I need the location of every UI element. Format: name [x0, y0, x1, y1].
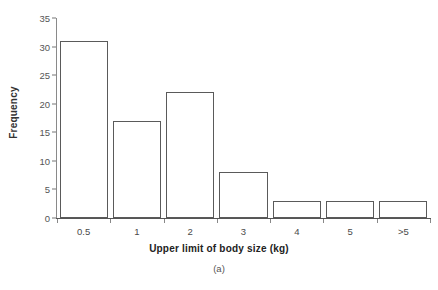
- bar: [166, 92, 214, 218]
- y-tick-label: 35: [39, 13, 50, 24]
- y-tick-label: 20: [39, 98, 50, 109]
- figure-caption: (a): [0, 263, 438, 274]
- bar: [60, 41, 108, 218]
- y-tick-mark: [52, 160, 56, 161]
- x-tick-label: 0.5: [77, 226, 90, 237]
- x-tick-mark: [110, 219, 111, 223]
- y-tick-mark: [52, 103, 56, 104]
- x-tick-mark: [430, 219, 431, 223]
- y-tick-mark: [52, 18, 56, 19]
- x-tick-mark: [57, 219, 58, 223]
- plot-area: 05101520253035 0.512345>5: [57, 18, 430, 218]
- y-tick-label: 0: [45, 213, 50, 224]
- y-axis-line: [56, 18, 57, 218]
- x-tick-mark: [323, 219, 324, 223]
- y-tick-label: 10: [39, 155, 50, 166]
- x-tick-mark: [270, 219, 271, 223]
- x-tick-label: >5: [398, 226, 409, 237]
- x-tick-label: 4: [294, 226, 299, 237]
- y-tick-label: 15: [39, 127, 50, 138]
- y-tick-label: 5: [45, 184, 50, 195]
- y-tick-mark: [52, 189, 56, 190]
- bar: [219, 172, 267, 218]
- bar: [326, 201, 374, 218]
- x-tick-mark: [164, 219, 165, 223]
- y-tick-mark: [52, 218, 56, 219]
- y-tick-mark: [52, 75, 56, 76]
- y-axis-title-label: Frequency: [8, 86, 19, 138]
- bar: [113, 121, 161, 218]
- x-axis-title: Upper limit of body size (kg): [0, 243, 438, 254]
- x-axis-line: [56, 218, 431, 219]
- x-tick-mark: [217, 219, 218, 223]
- bar-chart-figure: Frequency 05101520253035 0.512345>5 Uppe…: [0, 0, 438, 290]
- x-tick-label: 5: [347, 226, 352, 237]
- y-tick-mark: [52, 46, 56, 47]
- x-tick-label: 3: [241, 226, 246, 237]
- bar: [273, 201, 321, 218]
- x-tick-mark: [377, 219, 378, 223]
- y-tick-label: 25: [39, 70, 50, 81]
- x-tick-label: 1: [134, 226, 139, 237]
- bar: [379, 201, 427, 218]
- x-tick-label: 2: [188, 226, 193, 237]
- y-tick-label: 30: [39, 41, 50, 52]
- y-tick-mark: [52, 132, 56, 133]
- y-axis-title: Frequency: [2, 0, 24, 225]
